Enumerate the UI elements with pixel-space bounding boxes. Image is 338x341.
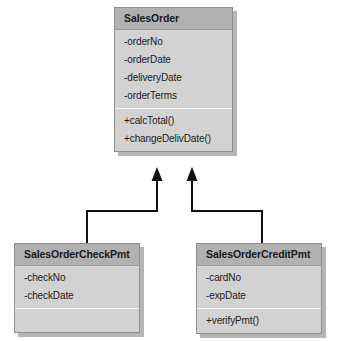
class-box-salesordercheckpmt[interactable]: SalesOrderCheckPmt -checkNo -checkDate xyxy=(14,243,140,333)
operation-item: +verifyPmt() xyxy=(197,312,321,330)
operation-item: +changeDelivDate() xyxy=(115,130,232,148)
attribute-item: -orderNo xyxy=(115,33,232,51)
attribute-item: -checkNo xyxy=(15,269,139,287)
class-name-salesordercheckpmt: SalesOrderCheckPmt xyxy=(15,244,139,266)
generalization-line-checkpmt xyxy=(87,176,157,243)
generalization-arrowhead-creditpmt xyxy=(187,167,198,181)
operation-item: +calcTotal() xyxy=(115,112,232,130)
operations-compartment-salesorder: +calcTotal() +changeDelivDate() xyxy=(115,109,232,151)
generalization-arrowhead-checkpmt xyxy=(152,167,163,181)
class-name-salesordercreditpmt: SalesOrderCreditPmt xyxy=(197,244,321,266)
attributes-compartment-salesordercreditpmt: -cardNo -expDate xyxy=(197,266,321,309)
attribute-item: -expDate xyxy=(197,287,321,305)
operations-compartment-salesordercreditpmt: +verifyPmt() xyxy=(197,309,321,333)
attribute-item: -deliveryDate xyxy=(115,69,232,87)
class-box-salesordercreditpmt[interactable]: SalesOrderCreditPmt -cardNo -expDate +ve… xyxy=(196,243,322,334)
operations-compartment-salesordercheckpmt xyxy=(15,309,139,332)
generalization-line-creditpmt xyxy=(192,176,262,243)
class-box-salesorder[interactable]: SalesOrder -orderNo -orderDate -delivery… xyxy=(114,7,233,152)
attributes-compartment-salesorder: -orderNo -orderDate -deliveryDate -order… xyxy=(115,30,232,109)
attribute-item: -checkDate xyxy=(15,287,139,305)
attribute-item: -orderDate xyxy=(115,51,232,69)
uml-class-diagram: SalesOrder -orderNo -orderDate -delivery… xyxy=(0,0,338,341)
attributes-compartment-salesordercheckpmt: -checkNo -checkDate xyxy=(15,266,139,309)
class-name-salesorder: SalesOrder xyxy=(115,8,232,30)
attribute-item: -cardNo xyxy=(197,269,321,287)
attribute-item: -orderTerms xyxy=(115,87,232,105)
